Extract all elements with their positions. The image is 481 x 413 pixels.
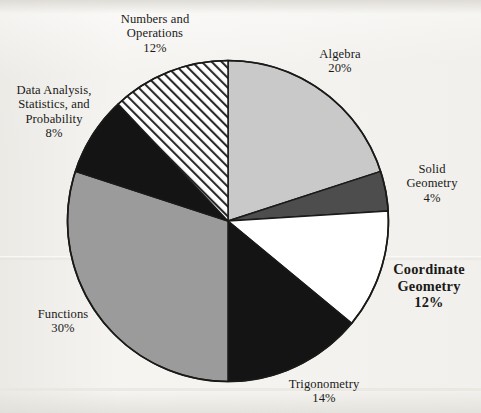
label-functions-pct: 30% — [17, 321, 109, 335]
label-coordinate-geometry-line2: Geometry — [397, 278, 460, 294]
label-data-analysis-line2: Statistics, and — [18, 97, 89, 111]
label-data-analysis-pct: 8% — [2, 126, 106, 140]
label-numbers-operations-line1: Numbers and — [121, 12, 190, 26]
label-trigonometry-pct: 14% — [269, 391, 379, 405]
pie-chart-svg — [0, 0, 481, 413]
label-algebra-pct: 20% — [297, 61, 383, 75]
pie-slices — [68, 61, 389, 382]
label-trigonometry: Trigonometry 14% — [269, 377, 379, 406]
label-functions-line1: Functions — [38, 307, 89, 321]
label-numbers-operations: Numbers and Operations 12% — [92, 12, 218, 55]
label-algebra: Algebra 20% — [297, 47, 383, 76]
label-algebra-line1: Algebra — [319, 47, 360, 61]
label-coordinate-geometry: Coordinate Geometry 12% — [378, 261, 480, 311]
label-trigonometry-line1: Trigonometry — [289, 377, 360, 391]
label-solid-geometry-pct: 4% — [389, 191, 475, 205]
label-solid-geometry-line2: Geometry — [406, 176, 457, 190]
label-data-analysis: Data Analysis, Statistics, and Probabili… — [2, 83, 106, 141]
label-numbers-operations-line2: Operations — [127, 26, 183, 40]
label-data-analysis-line3: Probability — [25, 112, 82, 126]
label-solid-geometry-line1: Solid — [418, 162, 445, 176]
pie-chart: Numbers and Operations 12% Data Analysis… — [0, 0, 481, 413]
label-functions: Functions 30% — [17, 307, 109, 336]
label-coordinate-geometry-line1: Coordinate — [393, 261, 465, 277]
label-numbers-operations-pct: 12% — [92, 41, 218, 55]
label-solid-geometry: Solid Geometry 4% — [389, 162, 475, 205]
label-data-analysis-line1: Data Analysis, — [17, 83, 92, 97]
label-coordinate-geometry-pct: 12% — [378, 294, 480, 311]
